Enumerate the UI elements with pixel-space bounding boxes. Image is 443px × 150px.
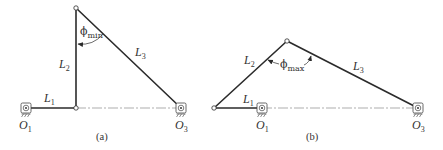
ground-pivot-o3-icon-a: [176, 103, 186, 117]
four-bar-linkage-diagram: ϕmin L1 L2 L3 O1 O3 (a) ϕmax L1 L2 L3 O1…: [0, 0, 443, 150]
label-l1-a: L1: [43, 91, 55, 107]
label-o3-a: O3: [175, 118, 188, 134]
angle-arc-phi-max-right: [304, 56, 311, 65]
ground-pivot-o1-icon-a: [21, 103, 31, 117]
link-l3-a: [76, 8, 181, 108]
label-o3-b: O3: [412, 118, 425, 134]
label-o1-b: O1: [256, 118, 269, 134]
pin-joint-top-b: [285, 39, 289, 43]
ground-pivot-o1-icon-b: [257, 103, 267, 117]
caption-b: (b): [306, 131, 319, 143]
link-l3-b: [287, 41, 418, 108]
angle-label-phi-min: ϕmin: [80, 25, 103, 40]
figure-b: ϕmax L1 L2 L3 O1 O3 (b): [212, 39, 425, 143]
label-l2-b: L2: [243, 53, 255, 69]
label-l2-a: L2: [58, 57, 70, 73]
label-o1-a: O1: [19, 118, 32, 134]
pin-joint-bottom-a: [74, 106, 78, 110]
label-l3-a: L3: [134, 45, 146, 61]
figure-a: ϕmin L1 L2 L3 O1 O3 (a): [19, 6, 188, 143]
ground-pivot-o3-icon-b: [413, 103, 423, 117]
label-l3-b: L3: [352, 59, 364, 75]
label-l1-b: L1: [242, 92, 254, 108]
angle-arc-phi-max-left: [268, 60, 279, 64]
caption-a: (a): [96, 131, 108, 143]
pin-joint-top-a: [74, 6, 78, 10]
pin-joint-left-b: [212, 106, 216, 110]
angle-label-phi-max: ϕmax: [280, 58, 305, 73]
